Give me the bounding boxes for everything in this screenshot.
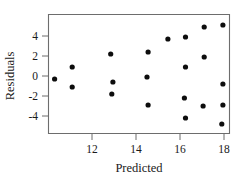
y-tick-label-1: 2 (32, 50, 38, 62)
y-axis-ticks (42, 36, 49, 116)
plot-canvas: 12 14 16 18 4 2 0 -2 -4 Predicted Residu… (0, 0, 246, 182)
data-point (219, 121, 224, 126)
data-point (220, 81, 225, 86)
data-point (165, 36, 170, 41)
y-tick-label-0: 4 (32, 30, 38, 42)
scatter-points-layer (52, 22, 225, 126)
data-point (52, 76, 57, 81)
x-axis-title: Predicted (115, 161, 163, 175)
y-axis-title: Residuals (3, 52, 17, 101)
y-tick-label-4: -4 (28, 110, 38, 122)
x-axis-ticks (92, 134, 224, 141)
x-tick-label-3: 18 (218, 143, 230, 155)
x-tick-label-1: 14 (130, 143, 142, 155)
y-tick-label-2: 0 (32, 70, 38, 82)
data-point (202, 24, 207, 29)
y-axis-tick-labels: 4 2 0 -2 -4 (28, 30, 38, 122)
data-point (146, 102, 151, 107)
data-point (110, 79, 115, 84)
data-point (183, 64, 188, 69)
residual-scatter-plot-figure: 12 14 16 18 4 2 0 -2 -4 Predicted Residu… (0, 0, 246, 182)
data-point (70, 84, 75, 89)
data-point (202, 54, 207, 59)
plot-frame (49, 15, 230, 134)
data-point (182, 95, 187, 100)
data-point (201, 103, 206, 108)
x-tick-label-0: 12 (86, 143, 98, 155)
data-point (109, 91, 114, 96)
data-point (220, 22, 225, 27)
data-point (144, 74, 149, 79)
data-point (108, 51, 113, 56)
data-point (70, 64, 75, 69)
x-axis-tick-labels: 12 14 16 18 (86, 143, 230, 155)
x-tick-label-2: 16 (174, 143, 186, 155)
data-point (183, 115, 188, 120)
data-point (146, 49, 151, 54)
y-tick-label-3: -2 (28, 90, 38, 102)
data-point (183, 34, 188, 39)
data-point (220, 102, 225, 107)
